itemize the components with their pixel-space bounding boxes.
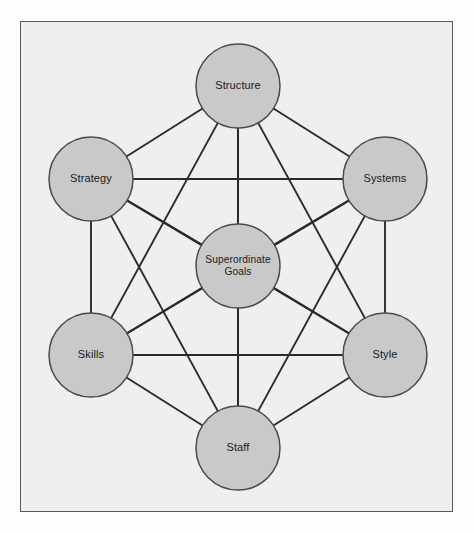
edge-skills-to-staff (126, 377, 202, 425)
seven-s-network-graph: StructureStrategySystemsSuperordinateGoa… (0, 0, 474, 533)
node-style[interactable]: Style (343, 313, 427, 397)
diagram-canvas: StructureStrategySystemsSuperordinateGoa… (0, 0, 474, 533)
node-label-line: Superordinate (205, 253, 271, 264)
node-staff[interactable]: Staff (196, 406, 280, 490)
edge-goals-to-style (274, 288, 349, 334)
node-label-staff: Staff (227, 441, 251, 453)
node-label-line: Style (373, 348, 398, 360)
node-label-skills: Skills (78, 348, 105, 360)
node-label-line: Structure (215, 79, 261, 91)
node-label-systems: Systems (364, 172, 407, 184)
node-strategy[interactable]: Strategy (49, 137, 133, 221)
node-skills[interactable]: Skills (49, 313, 133, 397)
node-label-line: Strategy (70, 172, 112, 184)
node-label-strategy: Strategy (70, 172, 112, 184)
node-structure[interactable]: Structure (196, 44, 280, 128)
node-label-line: Goals (224, 266, 251, 277)
node-label-style: Style (373, 348, 398, 360)
node-goals[interactable]: SuperordinateGoals (196, 224, 280, 308)
edge-style-to-staff (273, 377, 349, 425)
edge-structure-to-systems (273, 108, 349, 156)
node-label-line: Staff (227, 441, 251, 453)
edge-structure-to-strategy (126, 108, 202, 156)
node-systems[interactable]: Systems (343, 137, 427, 221)
nodes-layer: StructureStrategySystemsSuperordinateGoa… (49, 44, 427, 490)
node-label-line: Systems (364, 172, 407, 184)
edge-goals-to-skills (127, 288, 202, 334)
node-label-structure: Structure (215, 79, 261, 91)
node-label-line: Skills (78, 348, 105, 360)
